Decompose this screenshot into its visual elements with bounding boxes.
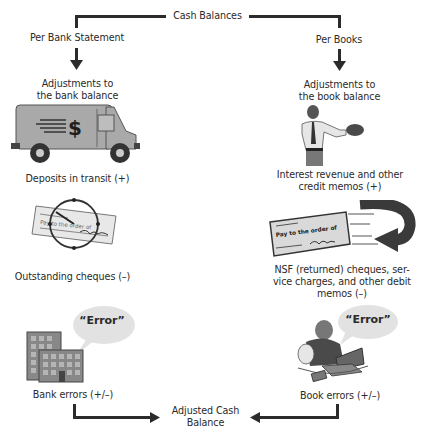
label-interest-revenue-line2: credit memos (+) [270, 181, 410, 193]
heading-per-bank-statement: Per Bank Statement [18, 32, 136, 44]
label-interest-revenue-line1: Interest revenue and other [270, 169, 410, 181]
connector-top-left [75, 15, 166, 18]
label-deposits-in-transit: Deposits in transit (+) [15, 173, 140, 185]
connector-bottom-left [73, 416, 153, 419]
right-adjustments-line2: the book balance [282, 91, 397, 103]
connector-top-left-drop [75, 15, 78, 28]
connector-top-right [249, 15, 341, 18]
left-adjustments-line2: the bank balance [20, 90, 135, 102]
arrow-right-icon [150, 412, 160, 423]
label-book-errors: Book errors (+/–) [295, 390, 385, 402]
result-adjusted-cash-line1: Adjusted Cash [163, 405, 248, 417]
label-nsf-line3: memos (–) [262, 288, 422, 300]
result-adjusted-cash-line2: Balance [163, 417, 248, 429]
connector-bottom-right [260, 416, 339, 419]
bank-building-icon [25, 330, 85, 385]
man-at-laptop-icon [292, 320, 372, 382]
arrow-down-right-icon [333, 49, 346, 71]
title-cash-balances: Cash Balances [166, 10, 249, 22]
man-holding-money-icon [300, 104, 372, 166]
cheque-clock-icon: Pay to the order of [28, 194, 122, 252]
connector-top-right-drop [338, 15, 341, 28]
arrow-down-left-icon [70, 48, 83, 70]
returned-cheque-icon: Pay to the order of [262, 200, 422, 262]
right-adjustments-line1: Adjustments to [282, 79, 397, 91]
armored-truck-icon: $ [10, 103, 142, 165]
label-nsf-line2: vice charges, and other debit [262, 276, 422, 288]
bubble-error-left: “Error” [72, 315, 132, 327]
arrow-left-icon [250, 412, 260, 423]
heading-per-books: Per Books [300, 34, 378, 46]
label-bank-errors: Bank errors (+/–) [28, 389, 118, 401]
label-outstanding-cheques: Outstanding cheques (–) [10, 271, 135, 283]
left-adjustments-line1: Adjustments to [20, 78, 135, 90]
label-nsf-line1: NSF (returned) cheques, ser- [262, 264, 422, 276]
svg-text:$: $ [68, 116, 82, 140]
